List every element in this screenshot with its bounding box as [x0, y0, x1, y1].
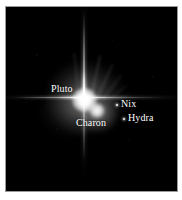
label-pluto: Pluto: [51, 84, 73, 94]
label-nix: Nix: [121, 99, 136, 109]
hydra-point-marker: [123, 118, 125, 120]
label-hydra: Hydra: [128, 113, 154, 123]
nix-point-marker: [116, 104, 118, 106]
astronomical-image-plate: Pluto Charon Nix Hydra: [5, 6, 178, 192]
image-frame: Pluto Charon Nix Hydra: [0, 0, 182, 200]
charon-core: [89, 103, 105, 118]
label-charon: Charon: [76, 118, 106, 128]
